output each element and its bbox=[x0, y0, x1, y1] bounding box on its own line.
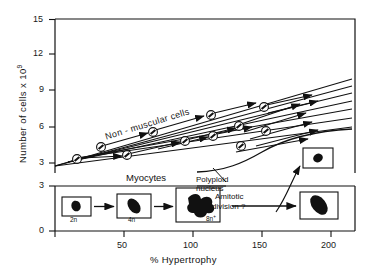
ploidy-label-8n: 8n+ bbox=[206, 215, 216, 223]
y-tick-0-lower: 0 bbox=[39, 226, 44, 235]
x-axis-ticks bbox=[55, 231, 331, 237]
y-tick-6: 6 bbox=[39, 122, 44, 131]
upper-panel-y-ticks bbox=[49, 20, 55, 164]
x-tick-100: 100 bbox=[183, 241, 198, 250]
x-tick-50: 50 bbox=[117, 241, 127, 250]
ploidy-label-4n: 4n bbox=[128, 217, 135, 224]
x-axis-label: % Hypertrophy bbox=[150, 255, 217, 265]
myocytes-label: Myocytes bbox=[126, 173, 166, 183]
y-tick-3-lower: 3 bbox=[39, 181, 44, 190]
amitotic-division-label-line1: Amitotic bbox=[215, 193, 243, 201]
polyploid-nucleus-label-line1: Polyploid bbox=[196, 176, 228, 184]
y-tick-15: 15 bbox=[33, 15, 43, 24]
amitotic-arrow-up bbox=[276, 166, 300, 212]
lower-panel-y-ticks bbox=[49, 186, 55, 231]
amitotic-division-label-line2: division ? bbox=[212, 203, 245, 211]
y-tick-12: 12 bbox=[33, 49, 43, 58]
ploidy-label-2n: 2n bbox=[70, 217, 77, 224]
figure-root: Number of cells x 109 15 12 9 6 3 3 0 50… bbox=[0, 0, 376, 270]
x-tick-150: 150 bbox=[252, 241, 267, 250]
x-tick-200: 200 bbox=[321, 241, 336, 250]
y-axis-label: Number of cells x 109 bbox=[16, 64, 28, 163]
figure-canvas bbox=[0, 0, 376, 270]
y-tick-3-upper: 3 bbox=[39, 158, 44, 167]
y-tick-9: 9 bbox=[39, 85, 44, 94]
